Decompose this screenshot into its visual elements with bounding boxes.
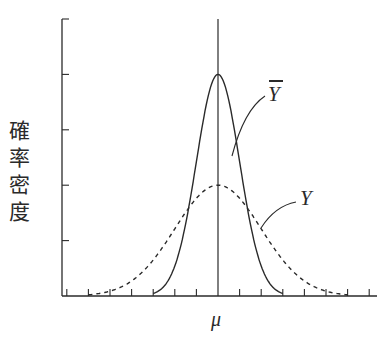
normal-distribution-chart: 確 率 密 度 Y Y μ (0, 0, 390, 341)
y-axis-label-char: 率 (6, 145, 32, 172)
sample-mean-label: Y (268, 84, 280, 105)
population-label: Y (300, 188, 312, 209)
population-leader-line (261, 202, 296, 228)
y-axis-label-char: 度 (6, 199, 32, 226)
y-axis-label-char: 確 (6, 118, 32, 145)
sample-mean-label-text: Y (268, 82, 280, 106)
plot-area (0, 0, 390, 341)
mean-mu-label: μ (211, 309, 221, 329)
y-axis-label: 確 率 密 度 (6, 118, 32, 226)
overbar (269, 80, 283, 82)
y-axis-label-char: 密 (6, 172, 32, 199)
